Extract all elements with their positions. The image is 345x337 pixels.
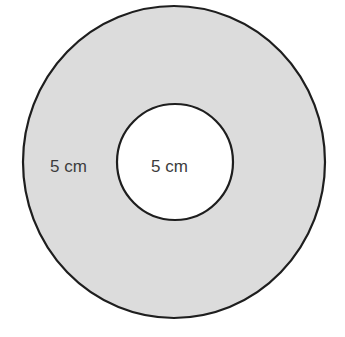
annulus-diagram: 5 cm 5 cm <box>0 0 345 337</box>
ring-width-label: 5 cm <box>50 157 87 176</box>
inner-radius-label: 5 cm <box>151 157 188 176</box>
